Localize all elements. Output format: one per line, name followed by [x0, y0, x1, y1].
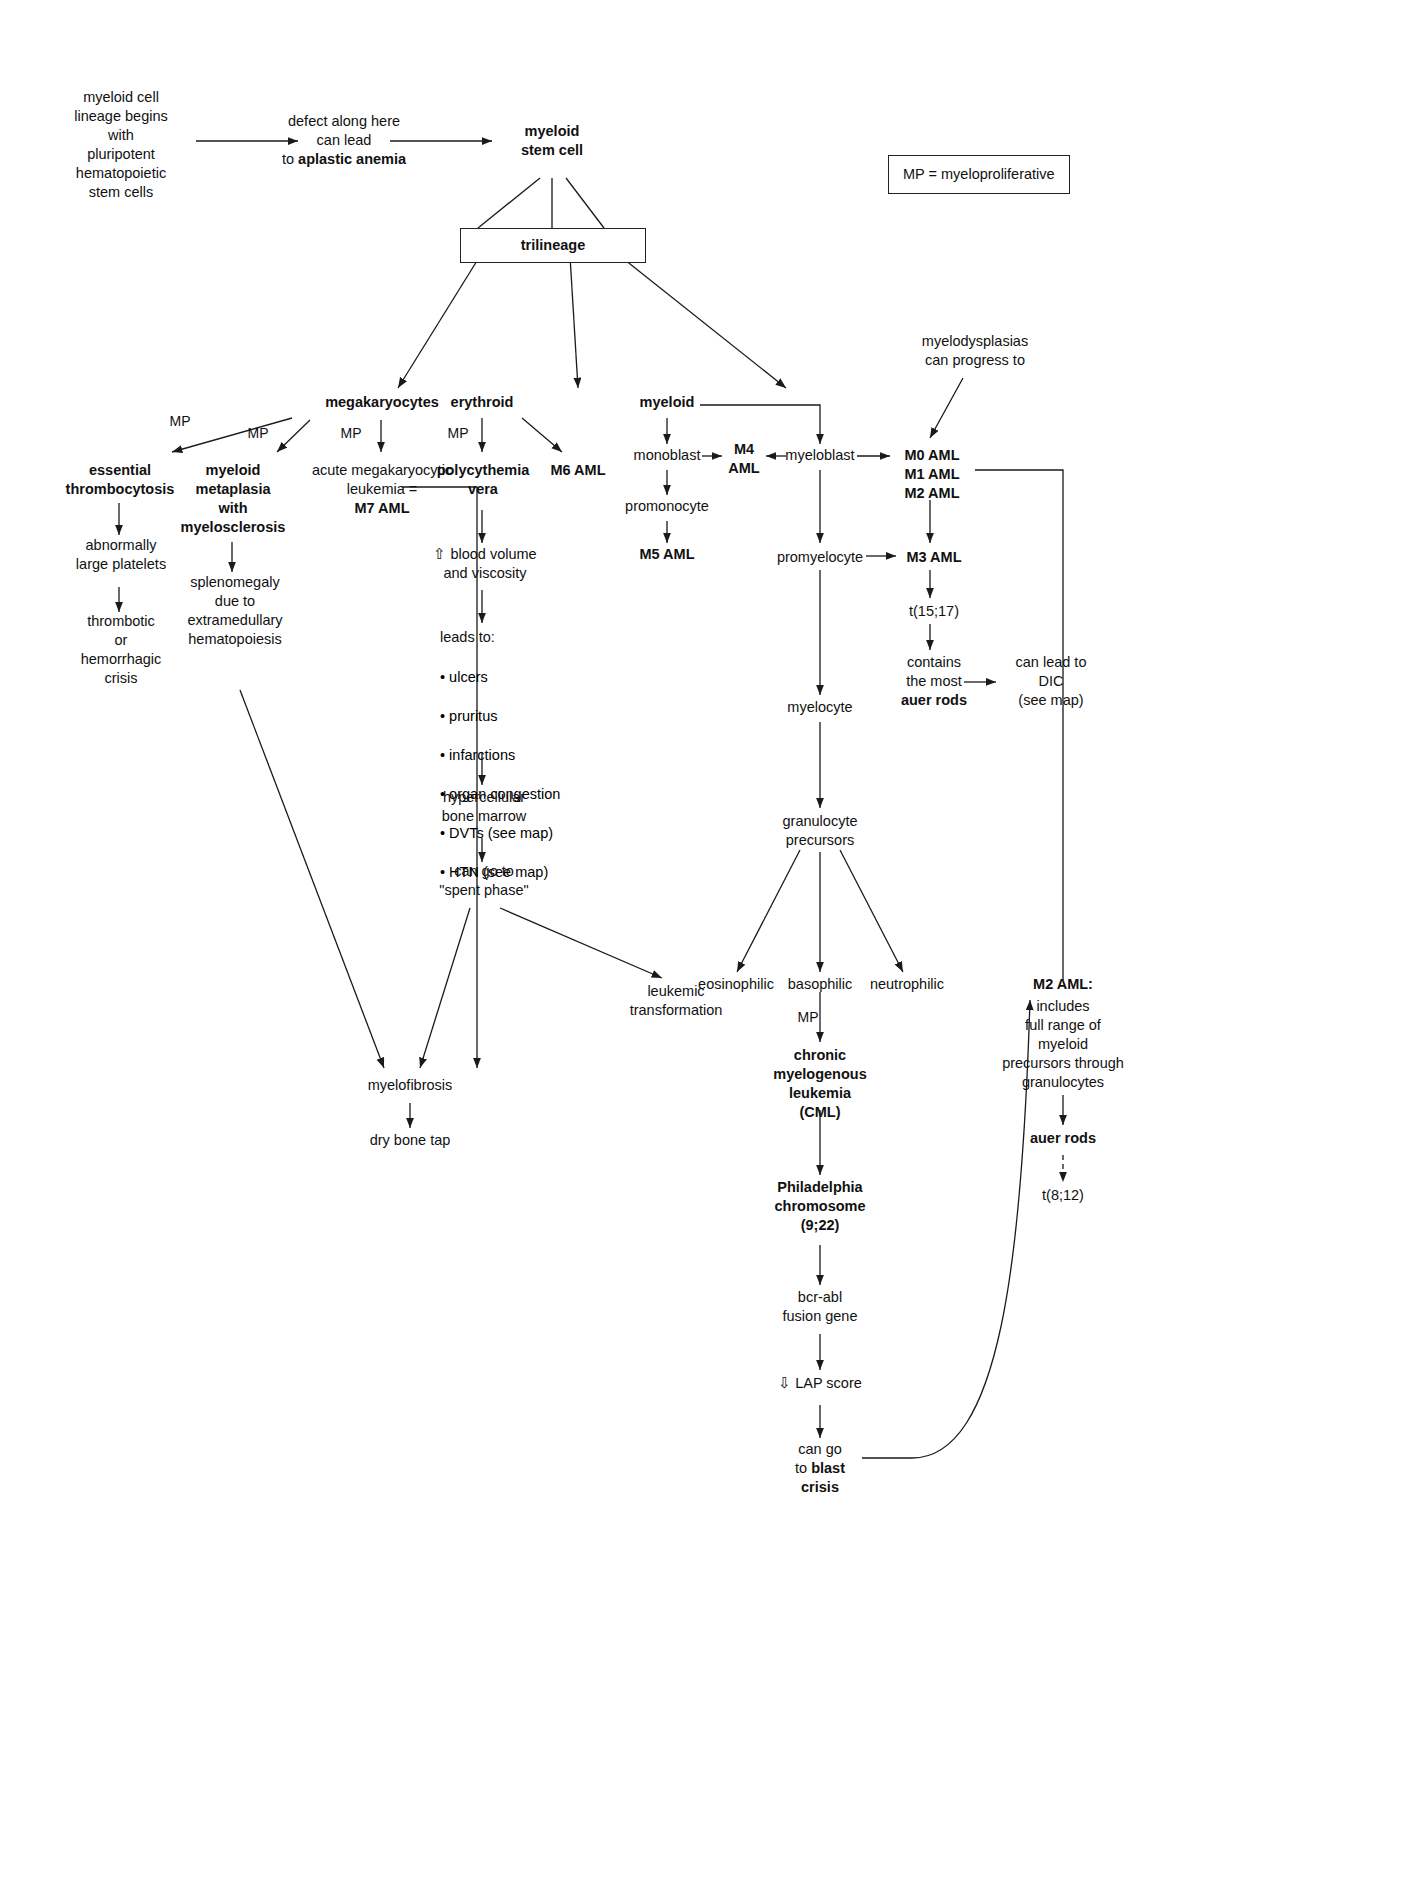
auer-rods-most-label: auer rods	[901, 692, 967, 708]
node-m5-aml: M5 AML	[616, 545, 718, 564]
node-trilineage: trilineage	[460, 228, 646, 263]
node-philadelphia-chromosome: Philadelphia chromosome (9;22)	[756, 1178, 884, 1235]
aplastic-anemia-label: aplastic anemia	[298, 151, 406, 167]
crisis-label: crisis	[801, 1479, 839, 1495]
node-cml: chronic myelogenous leukemia (CML)	[756, 1046, 884, 1122]
node-monoblast: monoblast	[612, 446, 722, 465]
node-m1-aml: M1 AML	[888, 465, 976, 484]
node-myeloid-stem-cell: myeloid stem cell	[494, 122, 610, 160]
node-promyelocyte: promyelocyte	[764, 548, 876, 567]
node-m3-aml: M3 AML	[890, 548, 978, 567]
node-blood-volume-viscosity: ⇧ blood volume and viscosity	[406, 545, 564, 583]
edge-label-mp-metaplasia: MP	[240, 424, 276, 443]
connector-lines	[0, 0, 1424, 1881]
node-myelofibrosis: myelofibrosis	[344, 1076, 476, 1095]
node-m4-aml: M4 AML	[712, 440, 776, 478]
node-dic: can lead to DIC (see map)	[996, 653, 1106, 710]
node-bcr-abl-fusion-gene: bcr-abl fusion gene	[758, 1288, 882, 1326]
edge-label-mp-acute-mega: MP	[333, 424, 369, 443]
blast-crisis-to: to	[795, 1460, 811, 1476]
node-myeloid-metaplasia: myeloid metaplasia with myelosclerosis	[172, 461, 294, 537]
blast-crisis-line1: can go	[798, 1441, 842, 1457]
node-erythroid: erythroid	[432, 393, 532, 412]
node-myeloid: myeloid	[622, 393, 712, 412]
node-myeloblast: myeloblast	[772, 446, 868, 465]
list-item-ulcers: • ulcers	[440, 668, 620, 688]
node-dry-bone-tap: dry bone tap	[344, 1131, 476, 1150]
node-abnormally-large-platelets: abnormally large platelets	[48, 536, 194, 574]
node-promonocyte: promonocyte	[606, 497, 728, 516]
list-item-pruritus: • pruritus	[440, 707, 620, 727]
node-m2-aml: M2 AML	[888, 484, 976, 503]
list-item-dvts: • DVTs (see map)	[440, 824, 620, 844]
node-neutrophilic: neutrophilic	[848, 975, 966, 994]
node-defect-aplastic-anemia: defect along here can lead to aplastic a…	[246, 112, 442, 169]
node-granulocyte-precursors: granulocyte precursors	[758, 812, 882, 850]
node-origin: myeloid cell lineage begins with pluripo…	[46, 88, 196, 202]
node-m2-aml-detail-title: M2 AML:	[998, 975, 1128, 994]
node-splenomegaly: splenomegaly due to extramedullary hemat…	[166, 573, 304, 649]
node-m2-aml-detail: includes full range of myeloid precursor…	[988, 997, 1138, 1092]
list-item-infarctions: • infarctions	[440, 746, 620, 766]
node-t-8-12: t(8;12)	[1003, 1186, 1123, 1205]
edge-label-mp-essential: MP	[162, 412, 198, 431]
edge-label-mp-erythroid: MP	[440, 424, 476, 443]
blast-label: blast	[811, 1460, 845, 1476]
node-myelocyte: myelocyte	[768, 698, 872, 717]
node-contains-most-auer-rods: contains the most auer rods	[884, 653, 984, 710]
node-lap-score: ⇩ LAP score	[756, 1374, 884, 1393]
m7-aml-label: M7 AML	[354, 500, 409, 516]
node-blast-crisis: can go to blast crisis	[760, 1440, 880, 1497]
node-spent-phase: can go to "spent phase"	[412, 862, 556, 900]
node-hypercellular-bone-marrow: hypercellular bone marrow	[412, 788, 556, 826]
node-leads-to-header: leads to:	[440, 628, 536, 647]
edge-label-mp-basophilic: MP	[790, 1008, 826, 1027]
node-myelodysplasias: myelodysplasias can progress to	[900, 332, 1050, 370]
node-auer-rods: auer rods	[1003, 1129, 1123, 1148]
flowchart-canvas: myeloid cell lineage begins with pluripo…	[0, 0, 1424, 1881]
contains-most-text: contains the most	[906, 654, 962, 689]
node-m0-aml: M0 AML	[888, 446, 976, 465]
node-t-15-17: t(15;17)	[890, 602, 978, 621]
legend-mp: MP = myeloproliferative	[888, 155, 1070, 194]
